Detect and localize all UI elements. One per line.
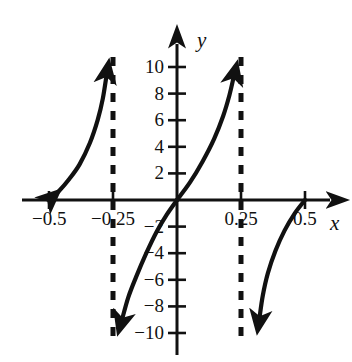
x-tick-label: 0.5 <box>293 209 317 228</box>
y-tick-label: 8 <box>155 84 165 103</box>
curve-branch-left <box>49 75 107 200</box>
y-tick-label: −8 <box>144 296 164 315</box>
y-tick-label: −6 <box>144 270 164 289</box>
x-axis-label: x <box>330 213 339 234</box>
y-tick-label: 10 <box>145 57 164 76</box>
y-axis-label: y <box>197 30 206 51</box>
y-tick-label: 4 <box>155 137 165 156</box>
y-tick-label: 6 <box>155 110 165 129</box>
x-tick-label: −0.5 <box>32 209 66 228</box>
graph-figure: 108642−2−4−6−8−10−0.5−0.250.250.5 y x <box>0 0 352 362</box>
y-tick-label: −10 <box>134 323 164 342</box>
function-plot-svg <box>0 0 352 362</box>
y-tick-label: −4 <box>144 243 164 262</box>
y-tick-label: −2 <box>144 217 164 236</box>
y-tick-label: 2 <box>155 163 165 182</box>
x-tick-label: 0.25 <box>225 209 258 228</box>
x-tick-label: −0.25 <box>91 209 135 228</box>
